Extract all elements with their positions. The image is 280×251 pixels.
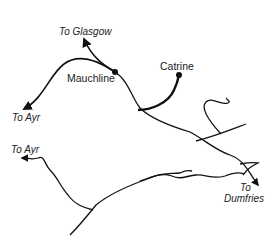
line-spur-east bbox=[196, 124, 246, 141]
label-mauchline: Mauchline bbox=[67, 72, 115, 84]
label-catrine: Catrine bbox=[160, 60, 194, 72]
line-to-ayr-bottom bbox=[22, 157, 93, 210]
line-hook-spur bbox=[204, 98, 229, 134]
label-to-ayr-bottom: To Ayr bbox=[11, 144, 40, 155]
label-to-ayr-top: To Ayr bbox=[12, 112, 41, 123]
label-to-dumfries-to: To bbox=[240, 182, 251, 193]
label-to-dumfries-name: Dumfries bbox=[224, 193, 264, 204]
line-bottom-diagonal bbox=[70, 171, 192, 235]
line-to-glasgow bbox=[84, 39, 115, 72]
railway-map: To Glasgow Mauchline Catrine To Ayr To A… bbox=[0, 0, 280, 251]
label-to-glasgow: To Glasgow bbox=[59, 26, 112, 37]
line-wavy-east bbox=[140, 173, 244, 181]
catrine-station-dot bbox=[176, 72, 182, 78]
line-main-to-dumfries bbox=[115, 72, 258, 185]
line-catrine-branch bbox=[138, 75, 179, 110]
